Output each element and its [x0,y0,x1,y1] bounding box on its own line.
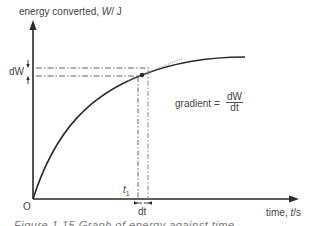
x-axis-label-text: time, [266,207,290,218]
dt-label: dt [138,206,146,217]
origin-label: O [23,201,31,212]
gradient-denominator: dt [230,103,238,113]
y-axis-label-text: energy converted, [19,6,102,17]
dt-arrowhead-right-icon [134,201,138,204]
x-axis-arrow-icon [289,196,299,203]
figure-caption: Figure 1.15 Graph of energy against time [14,219,235,226]
x-axis-label: time, t/s [266,207,301,218]
energy-curve [33,57,245,199]
y-axis-label-var: W [102,6,111,17]
y-axis-arrow-icon [30,20,37,30]
gradient-fraction: dW dt [226,92,243,113]
dW-arrowhead-up-icon [26,76,29,80]
graph-canvas [0,0,319,226]
x-axis-label-unit: /s [293,207,301,218]
point-marker [140,73,144,77]
t1-label: t1 [123,184,130,197]
gradient-label: gradient = [175,98,220,109]
y-axis-label-unit: / J [111,6,122,17]
dW-label: dW [9,66,24,77]
dW-arrowhead-down-icon [26,64,29,68]
t1-subscript: 1 [126,190,130,197]
dW-label-text: dW [9,66,24,77]
y-axis-label: energy converted, W/ J [19,6,122,17]
